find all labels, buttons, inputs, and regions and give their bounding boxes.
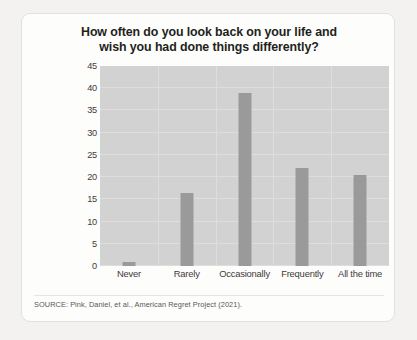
- y-axis-tick-label: 15: [76, 194, 97, 204]
- bar: [354, 175, 367, 266]
- horizontal-gridline: [100, 87, 389, 88]
- y-axis-tick-label: 20: [76, 172, 97, 182]
- x-axis-tick-label: Occasionally: [219, 268, 270, 279]
- x-axis-tick-label: Frequently: [281, 268, 323, 279]
- y-axis-tick-labels: 051015202530354045: [76, 66, 97, 266]
- source-note: SOURCE: Pink, Daniel, et al., American R…: [34, 300, 242, 309]
- y-axis-tick-label: 30: [76, 128, 97, 138]
- bar: [238, 93, 251, 266]
- y-axis-tick-label: 0: [76, 261, 97, 271]
- y-axis-tick-label: 5: [76, 239, 97, 249]
- bar: [180, 193, 193, 266]
- vertical-gridline: [158, 66, 159, 266]
- plot-area: [100, 66, 389, 266]
- y-axis-tick-label: 45: [76, 61, 97, 71]
- x-axis-tick-labels: NeverRarelyOccasionallyFrequentlyAll the…: [100, 268, 389, 284]
- bar: [296, 168, 309, 266]
- x-axis-tick-label: Never: [117, 268, 141, 279]
- x-axis-tick-label: Rarely: [174, 268, 200, 279]
- x-axis-tick-label: All the time: [338, 268, 382, 279]
- chart-title: How often do you look back on your life …: [46, 25, 372, 55]
- vertical-gridline: [273, 66, 274, 266]
- chart-title-line-1: How often do you look back on your life …: [81, 25, 337, 39]
- vertical-gridline: [216, 66, 217, 266]
- plot-region: Percentage of respondents 05101520253035…: [76, 66, 389, 283]
- y-axis-tick-label: 35: [76, 105, 97, 115]
- bar: [122, 262, 135, 266]
- chart-card: How often do you look back on your life …: [21, 13, 395, 322]
- y-axis-tick-label: 25: [76, 150, 97, 160]
- source-divider: [34, 295, 384, 296]
- chart-title-line-2: wish you had done things differently?: [99, 40, 318, 54]
- vertical-gridline: [331, 66, 332, 266]
- y-axis-tick-label: 40: [76, 83, 97, 93]
- y-axis-tick-label: 10: [76, 217, 97, 227]
